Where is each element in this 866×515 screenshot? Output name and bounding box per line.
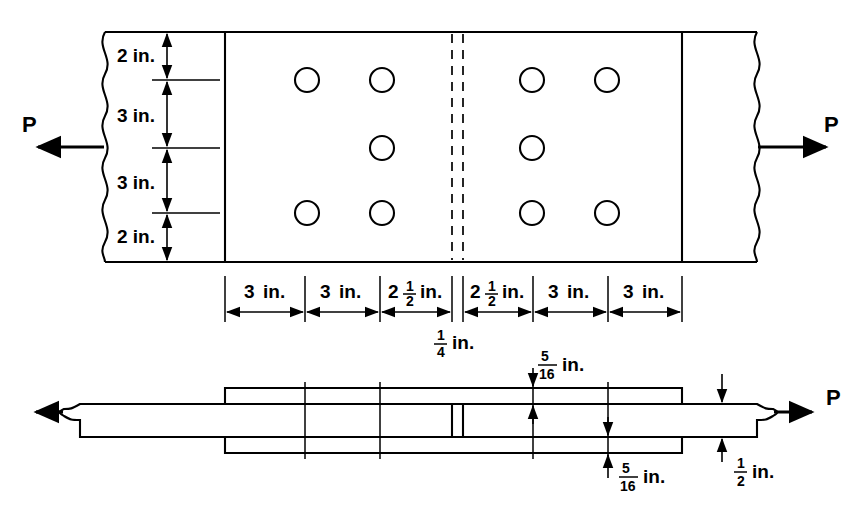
pitch-label-3: 2 1 2 in. — [388, 278, 442, 309]
dimension-label-edge-bottom: 2 in. — [117, 226, 155, 247]
svg-text:3: 3 — [320, 281, 331, 302]
svg-text:in.: in. — [642, 281, 664, 302]
thickness-label-main-plate: 1 2 in. — [734, 455, 774, 489]
engineering-drawing: 2 in. 3 in. 3 in. 2 in. P P — [0, 0, 866, 515]
elevation-view-group: P 5 16 in. 5 16 in. 1 — [36, 348, 841, 494]
svg-text:3: 3 — [244, 281, 255, 302]
svg-text:2: 2 — [406, 293, 414, 309]
pitch-label-4: 2 1 2 in. — [470, 278, 524, 309]
svg-text:2: 2 — [470, 281, 481, 302]
thickness-label-top-cover: 5 16 in. — [538, 348, 584, 382]
main-plate-left — [60, 404, 453, 437]
svg-text:4: 4 — [437, 344, 445, 360]
svg-text:in.: in. — [263, 281, 285, 302]
bolt-hole — [595, 201, 619, 225]
pitch-label-5: 3 in. — [548, 281, 589, 302]
joint-gap-label: 1 4 in. — [434, 327, 474, 360]
svg-text:1: 1 — [737, 455, 745, 471]
pitch-label-2: 3 in. — [320, 281, 361, 302]
figure-canvas: 2 in. 3 in. 3 in. 2 in. P P — [0, 0, 866, 515]
bottom-cover-plate — [225, 437, 682, 453]
svg-text:in.: in. — [420, 281, 442, 302]
bolt-hole — [370, 136, 394, 160]
svg-text:in.: in. — [752, 461, 774, 482]
svg-text:2: 2 — [737, 473, 745, 489]
bolt-hole — [295, 68, 319, 92]
load-label-side-right: P — [826, 385, 841, 410]
dimension-label-gage-lower: 3 in. — [117, 172, 155, 193]
svg-text:in.: in. — [562, 354, 584, 375]
main-plate-right — [463, 404, 778, 437]
dimension-label-gage-upper: 3 in. — [117, 105, 155, 126]
bolt-hole — [370, 68, 394, 92]
svg-text:5: 5 — [541, 348, 549, 364]
svg-text:5: 5 — [622, 460, 630, 476]
plan-view-group: 2 in. 3 in. 3 in. 2 in. P P — [22, 32, 839, 360]
dimension-label-edge-top: 2 in. — [117, 45, 155, 66]
svg-text:1: 1 — [488, 278, 496, 294]
thickness-label-bottom-cover: 5 16 in. — [619, 460, 665, 494]
svg-text:3: 3 — [548, 281, 559, 302]
svg-text:16: 16 — [539, 366, 555, 382]
top-cover-plate — [225, 388, 682, 404]
svg-text:2: 2 — [388, 281, 399, 302]
svg-text:1: 1 — [406, 278, 414, 294]
svg-text:in.: in. — [502, 281, 524, 302]
svg-text:in.: in. — [452, 332, 474, 353]
svg-text:1: 1 — [437, 327, 445, 343]
pitch-label-6: 3 in. — [623, 281, 664, 302]
svg-text:in.: in. — [643, 466, 665, 487]
bolt-hole — [595, 68, 619, 92]
bolt-hole — [295, 201, 319, 225]
svg-text:in.: in. — [339, 281, 361, 302]
svg-text:in.: in. — [567, 281, 589, 302]
load-label-right: P — [824, 112, 839, 137]
svg-text:16: 16 — [620, 478, 636, 494]
bolt-hole — [520, 201, 544, 225]
bolt-hole — [370, 201, 394, 225]
pitch-label-1: 3 in. — [244, 281, 285, 302]
svg-text:2: 2 — [488, 293, 496, 309]
bolt-hole — [520, 68, 544, 92]
bolt-hole — [520, 136, 544, 160]
load-label-left: P — [22, 112, 37, 137]
svg-text:3: 3 — [623, 281, 634, 302]
